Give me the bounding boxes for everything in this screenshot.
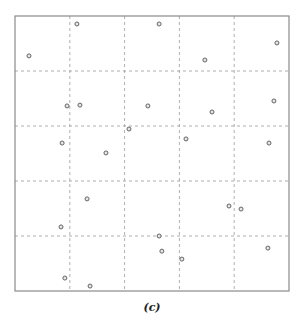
data-point — [184, 137, 188, 141]
grid-lines — [15, 16, 289, 291]
data-point — [127, 127, 131, 131]
data-point — [85, 197, 89, 201]
data-point — [88, 284, 92, 288]
data-point — [272, 99, 276, 103]
scatter-plot — [0, 0, 304, 300]
data-point — [210, 110, 214, 114]
data-point — [78, 103, 82, 107]
data-point — [180, 257, 184, 261]
data-point — [203, 58, 207, 62]
data-points — [27, 22, 279, 288]
data-point — [75, 22, 79, 26]
data-point — [157, 234, 161, 238]
data-point — [27, 54, 31, 58]
data-point — [160, 249, 164, 253]
data-point — [157, 22, 161, 26]
data-point — [104, 151, 108, 155]
data-point — [275, 41, 279, 45]
data-point — [267, 141, 271, 145]
data-point — [227, 204, 231, 208]
data-point — [60, 141, 64, 145]
data-point — [63, 276, 67, 280]
plot-frame — [15, 16, 289, 291]
data-point — [65, 104, 69, 108]
data-point — [59, 225, 63, 229]
figure-caption: (c) — [0, 301, 304, 314]
data-point — [239, 207, 243, 211]
data-point — [266, 246, 270, 250]
data-point — [146, 104, 150, 108]
